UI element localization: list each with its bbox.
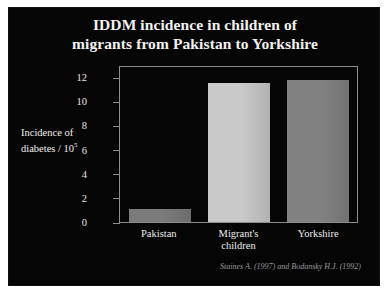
y-axis-title: Incidence of diabetes / 105 <box>21 126 109 155</box>
y-axis-tick <box>113 126 120 127</box>
chart-title: IDDM incidence in children of migrants f… <box>9 15 381 53</box>
chart-board: IDDM incidence in children of migrants f… <box>8 7 380 286</box>
y-axis-tick <box>113 150 120 151</box>
y-axis-tick <box>113 198 120 199</box>
y-axis-tick <box>113 102 120 103</box>
slide-canvas: IDDM incidence in children of migrants f… <box>0 0 388 293</box>
y-axis-title-line-2: diabetes / 105 <box>21 139 109 155</box>
y-axis-tick <box>113 78 120 79</box>
x-axis-label: Yorkshire <box>278 228 358 252</box>
y-axis-tick-label: 6 <box>67 146 87 157</box>
y-axis-tick-label: 0 <box>67 218 87 229</box>
x-axis-label: Migrant'schildren <box>199 228 279 252</box>
bar-series <box>120 67 357 222</box>
bar-slot <box>120 67 199 222</box>
x-axis-label-line: Migrant's <box>199 228 279 240</box>
x-axis-labels: PakistanMigrant'schildrenYorkshire <box>119 228 358 252</box>
y-axis-title-line-1: Incidence of <box>21 126 109 139</box>
y-axis-tick-label: 8 <box>67 121 87 132</box>
plot-area <box>119 66 358 223</box>
y-axis-tick-label: 4 <box>67 170 87 181</box>
x-axis-label-line: children <box>199 240 279 252</box>
source-citation: Staines A. (1997) and Bodansky H.J. (199… <box>220 262 361 271</box>
y-axis-tick <box>113 223 120 224</box>
chart-title-line-2: migrants from Pakistan to Yorkshire <box>9 34 381 53</box>
bar-yorkshire <box>287 80 349 222</box>
y-axis-tick-label: 10 <box>67 97 87 108</box>
bar-migrant-s-children <box>208 83 270 223</box>
bar-slot <box>278 67 357 222</box>
y-axis-tick-label: 2 <box>67 194 87 205</box>
chart-title-line-1: IDDM incidence in children of <box>9 15 381 34</box>
x-axis-label: Pakistan <box>119 228 199 252</box>
x-axis-label-line: Yorkshire <box>278 228 358 240</box>
y-axis-tick-label: 12 <box>67 73 87 84</box>
x-axis-label-line: Pakistan <box>119 228 199 240</box>
y-axis-tick <box>113 174 120 175</box>
bar-pakistan <box>129 209 191 222</box>
bar-slot <box>199 67 278 222</box>
